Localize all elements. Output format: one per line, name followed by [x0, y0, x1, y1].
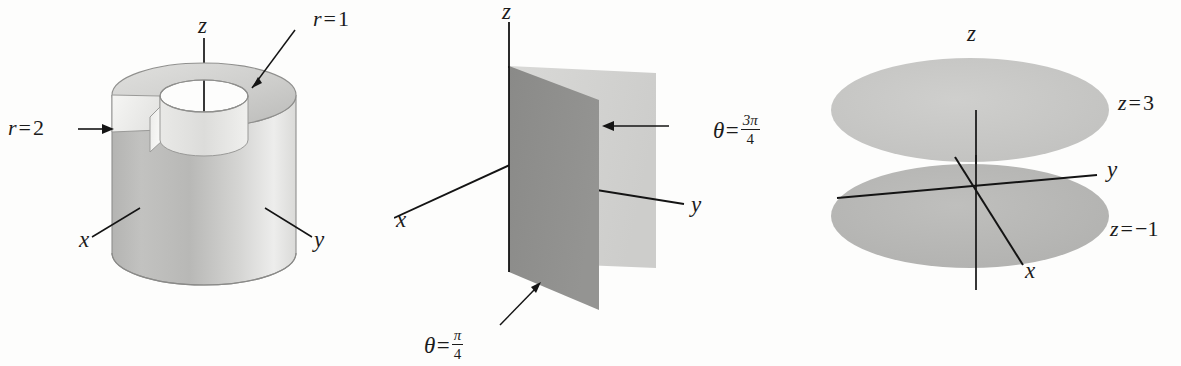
outer-radius-op: = — [17, 115, 33, 140]
front-plane-label: θ=π4 — [424, 327, 464, 362]
upper-plane-op: = — [1127, 90, 1143, 115]
inner-radius-op: = — [322, 6, 338, 31]
disks-y-axis-label: y — [1107, 158, 1117, 181]
annular-cylinder-panel: z x y r=1 r=2 — [0, 0, 394, 366]
back-plane-fraction: 3π4 — [741, 112, 760, 147]
z-planes-drawing — [787, 0, 1181, 366]
outer-radius-label: r=2 — [8, 117, 44, 139]
theta-planes-drawing — [394, 0, 788, 366]
cylinder-x-axis-label: x — [79, 228, 89, 251]
front-plane-op: = — [435, 333, 451, 358]
back-plane-op: = — [724, 118, 740, 143]
theta-half-planes-panel: z x y θ=3π4 θ=π4 — [394, 0, 788, 366]
annular-cylinder-drawing — [0, 0, 394, 366]
back-plane-denominator: 4 — [741, 130, 760, 147]
disks-z-axis-label: z — [967, 22, 976, 45]
outer-radius-lhs: r — [8, 115, 17, 140]
lower-plane-label: z=−1 — [1110, 218, 1158, 240]
x-axis-line — [394, 164, 512, 218]
planes-y-axis-label: y — [691, 193, 701, 216]
planes-z-axis-label: z — [502, 0, 511, 23]
front-plane-denominator: 4 — [452, 345, 464, 362]
back-plane-label: θ=3π4 — [713, 112, 761, 147]
upper-plane-label: z=3 — [1118, 92, 1154, 114]
upper-plane-disk — [831, 58, 1109, 162]
front-plane-numerator: π — [452, 327, 464, 345]
front-plane-fraction: π4 — [452, 327, 464, 362]
front-plane-leader-line — [500, 288, 536, 325]
lower-plane-op: = — [1119, 216, 1135, 241]
disks-x-axis-label: x — [1025, 259, 1035, 282]
cylinder-z-axis-label: z — [198, 14, 207, 37]
figure-root: z x y r=1 r=2 — [0, 0, 1181, 366]
planes-x-axis-label: x — [396, 208, 406, 231]
upper-plane-rhs: 3 — [1143, 90, 1154, 115]
lower-plane-rhs: −1 — [1135, 216, 1158, 241]
back-plane-numerator: 3π — [741, 112, 760, 130]
back-plane-theta: θ — [713, 118, 724, 143]
inner-radius-rhs: 1 — [338, 6, 349, 31]
outer-radius-rhs: 2 — [33, 115, 44, 140]
upper-plane-lhs: z — [1118, 90, 1127, 115]
front-half-plane — [509, 66, 599, 310]
front-plane-theta: θ — [424, 333, 435, 358]
cylinder-y-axis-label: y — [314, 228, 324, 251]
lower-plane-lhs: z — [1110, 216, 1119, 241]
inner-radius-label: r=1 — [313, 8, 349, 30]
z-constant-planes-panel: z y x z=3 z=−1 — [787, 0, 1181, 366]
inner-radius-lhs: r — [313, 6, 322, 31]
